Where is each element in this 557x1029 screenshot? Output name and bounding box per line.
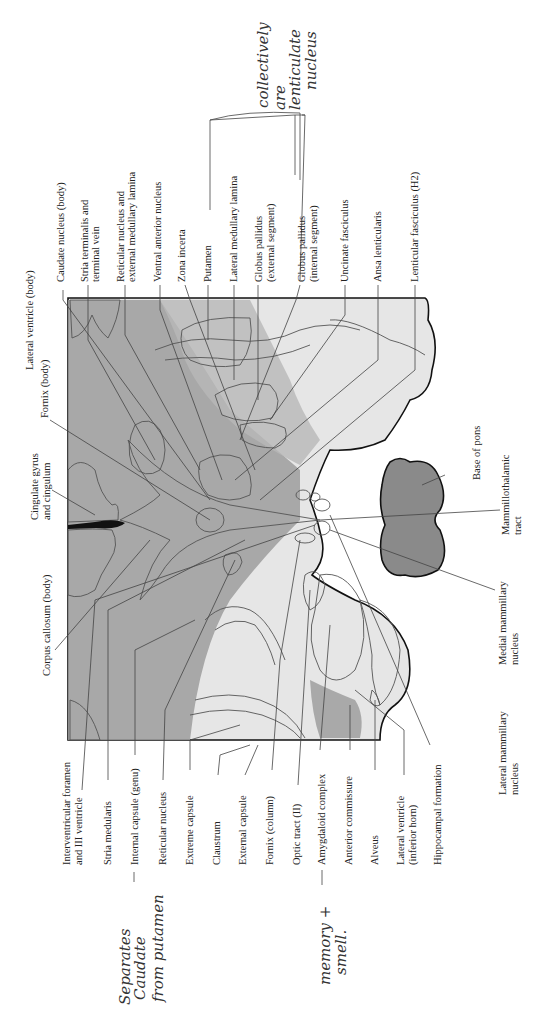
label-amygdaloid-complex: Amygdaloid complex xyxy=(316,773,327,865)
label-gp-internal-2: (internal segment) xyxy=(308,205,320,282)
label-hippocampal-formation: Hippocampal formation xyxy=(432,764,443,865)
note-nucleus: nucleus xyxy=(302,31,320,90)
label-mammillothalamic-2: tract xyxy=(512,516,523,535)
label-lat-ventricle-inf-1: Lateral ventricle xyxy=(395,796,406,865)
label-stria-terminalis-2: terminal vein xyxy=(90,226,101,282)
left-labels: Fornix (body) Cingulate gyrus and cingul… xyxy=(29,359,53,676)
label-zona-incerta: Zona incerta xyxy=(176,229,187,282)
label-optic-tract: Optic tract (II) xyxy=(291,803,303,865)
label-base-of-pons: Base of pons xyxy=(471,426,482,480)
label-reticular-lamina-2: external medullary lamina xyxy=(126,171,137,282)
brain-section xyxy=(68,298,435,740)
brain-coronal-section-diagram: Lateral ventricle (body) Caudate nucleus… xyxy=(0,0,557,1029)
label-lateral-medullary-lamina: Lateral medullary lamina xyxy=(228,176,239,282)
note-caudate: Caudate xyxy=(131,936,149,1000)
note-collectively: collectively xyxy=(254,22,272,108)
label-extreme-capsule: Extreme capsule xyxy=(184,795,195,865)
label-external-capsule: External capsule xyxy=(237,795,248,865)
label-cingulate-2: and cingulum xyxy=(41,463,52,520)
label-gp-internal-1: Globus pallidus xyxy=(296,216,307,282)
label-lateral-mammillary-2: nucleus xyxy=(509,763,520,795)
label-caudate-nucleus-body: Caudate nucleus (body) xyxy=(55,182,67,282)
label-uncinate-fasciculus: Uncinate fasciculus xyxy=(339,199,350,282)
label-fornix-body: Fornix (body) xyxy=(39,359,51,418)
label-interventricular-2: and III ventricle xyxy=(73,797,84,865)
label-medial-mammillary-1: Medial mammillary xyxy=(497,581,508,665)
label-putamen: Putamen xyxy=(202,245,213,282)
label-claustrum: Claustrum xyxy=(211,821,222,865)
label-anterior-commissure: Anterior commissure xyxy=(343,776,354,865)
label-lat-ventricle-inf-2: (inferior horn) xyxy=(407,804,419,865)
label-stria-terminalis-1: Stria terminalis and xyxy=(79,199,90,282)
label-internal-capsule-genu: Internal capsule (genu) xyxy=(129,768,141,865)
label-stria-medularis: Stria medularis xyxy=(102,801,113,865)
label-gp-external-2: (external segment) xyxy=(265,203,277,282)
label-reticular-nucleus: Reticular nucleus xyxy=(157,792,168,865)
label-mammillothalamic-1: Mammillothalamic xyxy=(500,454,511,535)
label-interventricular-1: Interventricular foramen xyxy=(61,761,72,865)
base-of-pons xyxy=(381,459,445,577)
label-fornix-column: Fornix (column) xyxy=(264,795,276,865)
label-lateral-mammillary-1: Lateral mammillary xyxy=(497,711,508,795)
label-lateral-ventricle-body: Lateral ventricle (body) xyxy=(24,270,36,370)
note-from-putamen: from putamen xyxy=(149,894,167,1003)
label-medial-mammillary-2: nucleus xyxy=(509,633,520,665)
label-lenticular-fasciculus: Lenticular fasciculus (H2) xyxy=(409,171,421,282)
right-labels: Base of pons Mammillothalamic tract Medi… xyxy=(471,426,523,665)
note-smell: smell. xyxy=(332,930,350,975)
label-corpus-callosum: Corpus callosum (body) xyxy=(41,574,53,676)
label-alveus: Alveus xyxy=(369,835,380,865)
label-ventral-anterior-nucleus: Ventral anterior nucleus xyxy=(152,182,163,282)
label-cingulate-1: Cingulate gyrus xyxy=(29,453,40,520)
label-reticular-lamina-1: Reticular nucleus and xyxy=(115,190,126,282)
label-gp-external-1: Globus pallidus xyxy=(253,216,264,282)
label-ansa-lenticularis: Ansa lenticularis xyxy=(372,211,383,282)
